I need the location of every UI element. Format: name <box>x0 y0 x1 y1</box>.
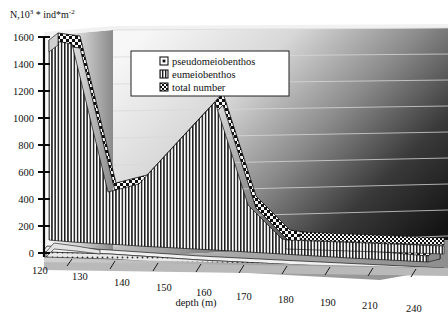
y-tick-label-0: 0 <box>29 248 34 259</box>
x-tick-label-140: 140 <box>114 277 130 288</box>
x-tick-label-240: 240 <box>406 303 422 314</box>
x-tick-label-130: 130 <box>72 271 88 282</box>
x-tick-label-190: 190 <box>320 297 336 308</box>
legend-item-eumeiobenthos[interactable]: eumeiobenthos <box>160 69 236 80</box>
chart-figure: 1600 1400 1200 1000 800 600 400 200 0 N,… <box>0 0 448 316</box>
y-tick-label-600: 600 <box>18 167 34 178</box>
striped-square-icon <box>160 70 168 78</box>
y-tick-label-200: 200 <box>18 221 34 232</box>
y-axis: 1600 1400 1200 1000 800 600 400 200 0 <box>13 32 50 259</box>
legend-label-eumeiobenthos: eumeiobenthos <box>172 69 236 80</box>
x-tick-label-120: 120 <box>32 265 48 276</box>
chart-svg: 1600 1400 1200 1000 800 600 400 200 0 N,… <box>0 0 448 316</box>
y-tick-label-1600: 1600 <box>13 32 34 43</box>
chart-legend: pseudomeiobenthos eumeiobenthos total nu… <box>131 51 289 96</box>
checkered-square-icon <box>160 83 168 91</box>
legend-label-pseudomeiobenthos: pseudomeiobenthos <box>172 56 255 67</box>
y-tick-label-1200: 1200 <box>13 86 34 97</box>
x-tick-label-170: 170 <box>236 291 252 302</box>
x-tick-label-180: 180 <box>278 294 294 305</box>
y-tick-label-800: 800 <box>18 140 34 151</box>
x-tick-label-150: 150 <box>156 282 172 293</box>
y-tick-label-1400: 1400 <box>13 59 34 70</box>
y-tick-label-400: 400 <box>18 194 34 205</box>
x-axis-title: depth (m) <box>175 297 217 309</box>
legend-item-pseudomeiobenthos[interactable]: pseudomeiobenthos <box>160 56 255 67</box>
y-tick-label-1000: 1000 <box>13 113 34 124</box>
x-tick-label-210: 210 <box>362 300 378 311</box>
y-axis-title: N,103 * ind*m-2 <box>10 8 75 20</box>
dotted-square-icon-core <box>163 60 166 63</box>
legend-label-total-number: total number <box>172 82 226 93</box>
